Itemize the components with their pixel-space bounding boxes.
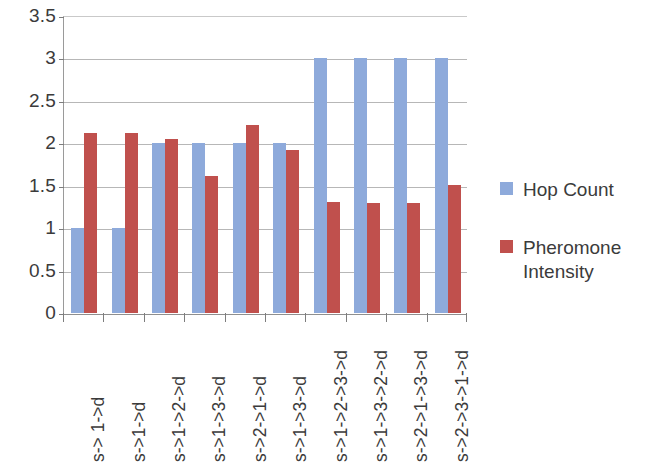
y-axis-tick-label: 0 — [0, 303, 56, 322]
x-axis-tick — [466, 313, 467, 322]
bar — [407, 203, 420, 313]
bar-group — [428, 17, 468, 313]
legend-label: Pheromone Intensity — [523, 236, 647, 284]
x-axis-tick-label: s->1->3->2->d — [373, 350, 391, 462]
bar-chart: 3.532.521.510.50 s-> 1->ds->1->ds->1->2-… — [0, 0, 654, 470]
x-axis-tick — [225, 313, 226, 322]
legend-entry[interactable]: Pheromone Intensity — [500, 236, 654, 284]
bar — [435, 58, 448, 313]
legend-swatch-icon — [500, 240, 513, 253]
bar-group — [347, 17, 387, 313]
x-axis-tick — [305, 313, 306, 322]
x-axis-tick-label: s->1->2->3->d — [333, 350, 351, 462]
y-axis-tick-label: 2 — [0, 133, 56, 152]
bar — [354, 58, 367, 313]
plot-area — [63, 16, 467, 313]
x-axis-tick — [63, 313, 64, 322]
x-axis-tick-label: s->2->3->1->d — [454, 350, 472, 462]
bar — [71, 228, 84, 313]
y-axis-tick-label: 3.5 — [0, 6, 56, 25]
x-axis-tick — [103, 313, 104, 322]
y-axis-tick-label: 2.5 — [0, 91, 56, 110]
legend-entry[interactable]: Hop Count — [500, 178, 654, 202]
bar — [152, 143, 165, 313]
y-axis-tick-label: 1.5 — [0, 176, 56, 195]
x-axis-tick-label: s->1->3->d — [292, 376, 310, 462]
y-axis-tick-label: 0.5 — [0, 261, 56, 280]
chart-legend: Hop CountPheromone Intensity — [500, 178, 654, 318]
x-axis-tick-label: s-> 1->d — [90, 397, 108, 462]
bar — [286, 150, 299, 313]
bar-group — [306, 17, 346, 313]
bar — [246, 125, 259, 313]
bar-group — [226, 17, 266, 313]
bar — [205, 176, 218, 313]
bar — [314, 58, 327, 313]
x-axis-labels: s-> 1->ds->1->ds->1->2->ds->1->3->ds->2-… — [63, 322, 467, 468]
bars-layer — [64, 17, 467, 313]
y-axis-tick-label: 3 — [0, 48, 56, 67]
bar — [192, 143, 205, 313]
x-axis-tick — [144, 313, 145, 322]
bar-group — [104, 17, 144, 313]
bar — [84, 133, 97, 313]
x-axis-tick-label: s->2->1->3->d — [413, 350, 431, 462]
x-axis-tick — [346, 313, 347, 322]
bar — [273, 143, 286, 313]
x-axis-tick — [427, 313, 428, 322]
x-axis-tick-label: s->1->3->d — [211, 376, 229, 462]
bar-group — [266, 17, 306, 313]
x-axis-tick — [265, 313, 266, 322]
bar — [394, 58, 407, 313]
y-axis-tick-label: 1 — [0, 218, 56, 237]
x-axis-tick-label: s->2->1->d — [252, 376, 270, 462]
legend-swatch-icon — [500, 182, 513, 195]
y-axis: 3.532.521.510.50 — [0, 0, 56, 330]
bar — [448, 185, 461, 313]
bar — [233, 143, 246, 313]
bar — [165, 139, 178, 313]
bar-group — [387, 17, 427, 313]
bar — [367, 203, 380, 313]
x-axis-tick-label: s->1->2->d — [171, 376, 189, 462]
bar — [112, 228, 125, 313]
bar-group — [64, 17, 104, 313]
bar — [125, 133, 138, 313]
x-axis-tick — [386, 313, 387, 322]
x-axis-tick — [184, 313, 185, 322]
bar — [327, 202, 340, 313]
legend-label: Hop Count — [523, 178, 614, 202]
bar-group — [145, 17, 185, 313]
bar-group — [185, 17, 225, 313]
x-axis-tick-label: s->1->d — [131, 402, 149, 462]
